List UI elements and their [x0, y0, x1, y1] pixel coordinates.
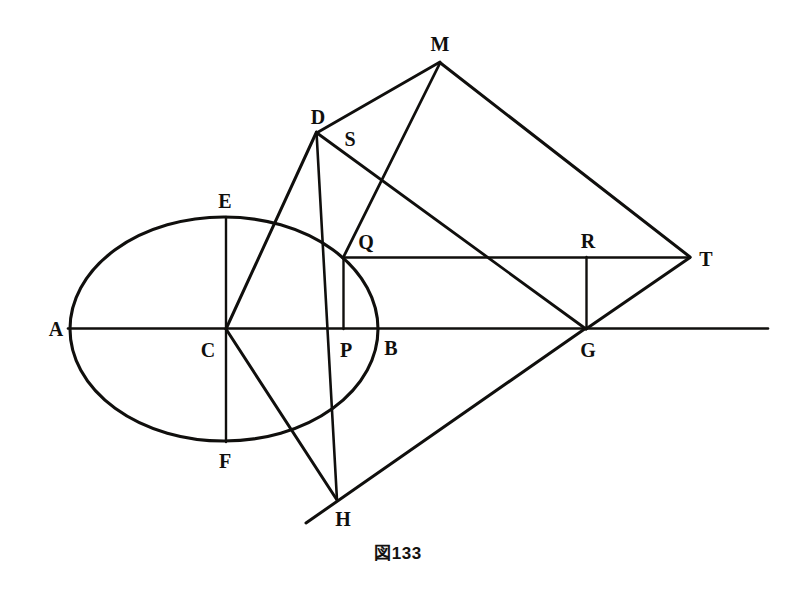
point-label-S: S: [344, 129, 355, 149]
segment-D-to-H: [317, 132, 338, 500]
point-label-M: M: [431, 34, 450, 54]
geometry-drawing: [0, 0, 796, 600]
point-label-G: G: [580, 340, 596, 360]
segment-M-to-T: [441, 63, 691, 257]
point-label-B: B: [384, 338, 397, 358]
segment-C-to-H: [226, 329, 337, 500]
point-label-D: D: [311, 107, 325, 127]
point-label-F: F: [219, 451, 231, 471]
figure-caption: 図133: [374, 539, 421, 564]
point-label-T: T: [699, 249, 712, 269]
point-label-A: A: [49, 319, 63, 339]
figure-133-container: A B C D E F G H M P Q R S T 図133: [0, 0, 796, 600]
point-label-E: E: [218, 191, 231, 211]
segment-G-to-T: [586, 258, 690, 330]
point-label-C: C: [201, 340, 215, 360]
segment-C-to-D: [226, 132, 317, 329]
point-label-Q: Q: [358, 232, 374, 252]
point-label-R: R: [581, 231, 595, 251]
segments-group: [68, 62, 768, 523]
point-label-H: H: [335, 509, 351, 529]
segment-M-to-Q: [343, 63, 440, 258]
point-label-P: P: [340, 340, 352, 360]
